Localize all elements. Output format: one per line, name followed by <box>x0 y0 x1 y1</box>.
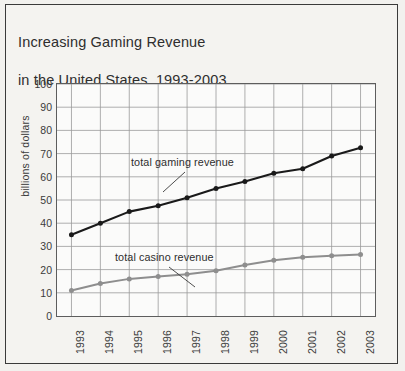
plot-area <box>56 83 376 317</box>
x-axis-tick-label: 2001 <box>306 330 318 354</box>
y-axis-tick-label: 80 <box>26 124 52 136</box>
y-axis-tick-label: 40 <box>26 217 52 229</box>
y-axis-tick-label: 0 <box>26 310 52 322</box>
data-point <box>300 166 305 171</box>
data-point <box>69 288 74 293</box>
y-axis-tick-label: 10 <box>26 287 52 299</box>
y-axis-tick-label: 90 <box>26 101 52 113</box>
data-point <box>329 153 334 158</box>
x-axis-tick-label: 2000 <box>277 330 289 354</box>
x-axis-tick-labels: 1993199419951996199719981999200020012002… <box>56 320 376 366</box>
data-point <box>98 281 103 286</box>
y-axis-tick-label: 30 <box>26 240 52 252</box>
data-point <box>358 252 363 257</box>
data-point <box>156 203 161 208</box>
data-point <box>271 171 276 176</box>
data-point <box>329 253 334 258</box>
y-axis-tick-labels: 0102030405060708090100 <box>22 83 52 317</box>
series-label-total-gaming-revenue: total gaming revenue <box>131 156 234 168</box>
grid-lines <box>57 84 375 316</box>
data-point <box>185 195 190 200</box>
data-point <box>300 255 305 260</box>
data-point <box>156 274 161 279</box>
data-point <box>214 268 219 273</box>
y-axis-tick-label: 60 <box>26 171 52 183</box>
data-point <box>271 258 276 263</box>
x-axis-tick-label: 1993 <box>74 330 86 354</box>
data-point <box>98 221 103 226</box>
y-axis-tick-label: 70 <box>26 148 52 160</box>
data-point <box>127 276 132 281</box>
annotation-leader-line <box>163 172 185 192</box>
data-point <box>185 272 190 277</box>
chart-title-line-1: Increasing Gaming Revenue <box>18 33 348 52</box>
data-point <box>358 145 363 150</box>
x-axis-tick-label: 1998 <box>219 330 231 354</box>
x-axis-tick-label: 2002 <box>335 330 347 354</box>
plot-svg <box>57 84 375 316</box>
data-point <box>242 179 247 184</box>
data-point <box>69 232 74 237</box>
series-label-total-casino-revenue: total casino revenue <box>115 251 214 263</box>
x-axis-tick-label: 2003 <box>364 330 376 354</box>
y-axis-tick-label: 20 <box>26 264 52 276</box>
chart-figure: Increasing Gaming Revenue in the United … <box>0 0 405 371</box>
y-axis-tick-label: 100 <box>26 78 52 90</box>
x-axis-tick-label: 1999 <box>248 330 260 354</box>
x-axis-tick-label: 1994 <box>103 330 115 354</box>
data-point <box>242 262 247 267</box>
data-point <box>214 186 219 191</box>
data-point <box>127 209 132 214</box>
x-axis-tick-label: 1996 <box>161 330 173 354</box>
x-axis-tick-label: 1995 <box>132 330 144 354</box>
y-axis-tick-label: 50 <box>26 194 52 206</box>
x-axis-tick-label: 1997 <box>190 330 202 354</box>
